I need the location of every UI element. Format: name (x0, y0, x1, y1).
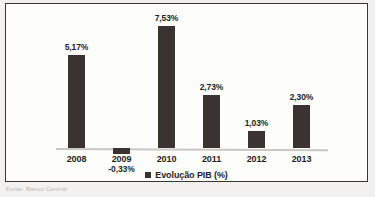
bar-chart-plot: 5,17% 2008 2009 -0,33% 7,53% 2010 2,73% … (6, 4, 367, 181)
bar-2010[interactable] (158, 26, 175, 148)
bar-value-label: 7,53% (144, 13, 189, 23)
chart-legend: Evolução PIB (%) (6, 170, 367, 180)
bar-group-2012: 1,03% 2012 (234, 4, 279, 181)
square-marker-icon (145, 172, 151, 178)
bar-value-label: 1,03% (234, 118, 279, 128)
bar-group-2011: 2,73% 2011 (189, 4, 234, 181)
bar-value-label: 2,30% (279, 92, 324, 102)
bar-value-label: 5,17% (54, 42, 99, 52)
bar-group-2009: 2009 -0,33% (99, 4, 144, 181)
category-label-2008: 2008 (54, 154, 99, 164)
bar-group-2010: 7,53% 2010 (144, 4, 189, 181)
bar-2012[interactable] (248, 131, 265, 148)
bar-value-label: 2,73% (189, 82, 234, 92)
category-label-2012: 2012 (234, 154, 279, 164)
source-caption: Fonte: Banco Central (6, 186, 67, 193)
bar-2011[interactable] (203, 95, 220, 148)
chart-frame: 5,17% 2008 2009 -0,33% 7,53% 2010 2,73% … (5, 3, 368, 182)
legend-label: Evolução PIB (%) (155, 170, 227, 180)
category-label-2010: 2010 (144, 154, 189, 164)
scanned-figure: 5,17% 2008 2009 -0,33% 7,53% 2010 2,73% … (0, 0, 375, 197)
bar-2013[interactable] (293, 105, 310, 148)
category-label-2013: 2013 (279, 154, 324, 164)
category-label-2009: 2009 (99, 154, 144, 164)
bar-group-2013: 2,30% 2013 (279, 4, 324, 181)
bar-2008[interactable] (68, 55, 85, 148)
category-label-2011: 2011 (189, 154, 234, 164)
bar-group-2008: 5,17% 2008 (54, 4, 99, 181)
